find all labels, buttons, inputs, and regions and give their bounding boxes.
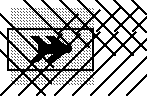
figure-canvas	[0, 0, 147, 96]
diagram-svg	[0, 0, 147, 96]
